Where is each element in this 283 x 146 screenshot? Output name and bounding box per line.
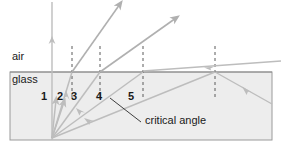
refracted-ray-5-grazing: [143, 61, 281, 71]
ray-label-2: 2: [57, 91, 63, 102]
air-label: air: [12, 51, 24, 62]
glass-label: glass: [12, 74, 38, 85]
ray-label-1: 1: [41, 91, 47, 102]
ray-label-5: 5: [128, 91, 134, 102]
refraction-critical-angle-figure: air glass 1 2 3 4 5 critical angle: [0, 0, 283, 146]
grazing-ray-arrow-icon: [204, 67, 214, 71]
ray-label-4: 4: [96, 91, 102, 102]
refracted-ray-4: [100, 18, 176, 72]
critical-angle-label: critical angle: [145, 115, 206, 126]
refracted-ray-3: [72, 4, 120, 72]
ray-label-3: 3: [71, 91, 77, 102]
diagram-canvas: [0, 0, 283, 146]
